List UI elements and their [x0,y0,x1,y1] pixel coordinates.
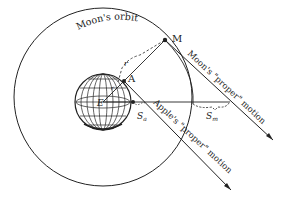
apple-motion-label: Apple's "proper" motion [151,96,235,175]
orbit-label: Moon's orbit [74,11,139,32]
moon-point-label: M [172,33,182,44]
apple-motion-arrow [124,81,231,190]
apple-point-label: A [127,73,136,84]
moon-motion-label: Moon's "proper" motion [186,48,269,126]
moon-fall-label: Sm [206,111,218,122]
apple-fall-label: Sa [137,111,147,122]
moon-fall-brace [193,103,229,110]
radius-line-em [103,40,165,102]
earth-center-label: E [96,98,104,108]
diagram-canvas: Moon's orbit M A E r r [0,0,287,204]
